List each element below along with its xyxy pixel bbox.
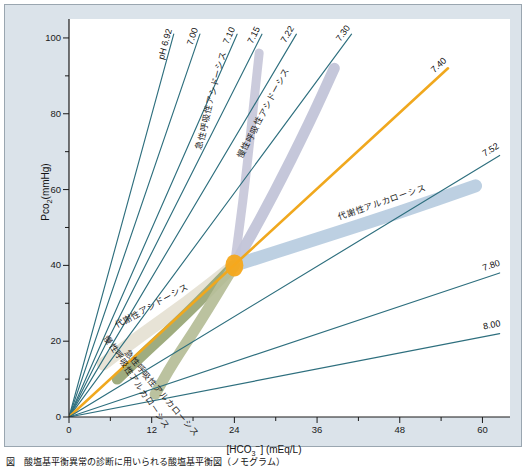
axis-frame-svg [5, 5, 523, 448]
x-tick-label-24: 24 [220, 424, 248, 435]
figure-page: 01224364860020406080100 pH 6.927.007.107… [0, 0, 530, 471]
y-tick-label-40: 40 [23, 259, 61, 270]
x-tick-label-36: 36 [303, 424, 331, 435]
y-tick-label-80: 80 [23, 108, 61, 119]
figure-caption: 図 酸塩基平衡異常の診断に用いられる酸塩基平衡図（ノモグラム） [6, 455, 530, 468]
x-tick-label-48: 48 [386, 424, 414, 435]
nomogram-figure-panel: 01224364860020406080100 pH 6.927.007.107… [4, 4, 522, 447]
y-tick-label-100: 100 [23, 32, 61, 43]
y-axis-title: Pco2(mmHg) [40, 144, 54, 240]
y-tick-label-0: 0 [23, 411, 61, 422]
y-tick-label-20: 20 [23, 335, 61, 346]
x-tick-label-60: 60 [468, 424, 496, 435]
x-tick-label-0: 0 [55, 424, 83, 435]
